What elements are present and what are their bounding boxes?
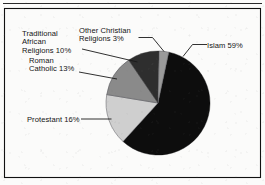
pie-chart-svg: Islam 59% Other Christian Religions 3% T… <box>0 0 265 185</box>
pie-slices <box>106 51 210 155</box>
leader-line-other-christian <box>139 38 165 52</box>
callout-protestant: Protestant 16% <box>27 115 80 124</box>
svg-text:Religions 10%: Religions 10% <box>22 46 71 55</box>
leader-line-islam <box>183 45 207 57</box>
pie-chart-figure: Islam 59% Other Christian Religions 3% T… <box>0 0 265 185</box>
svg-text:Catholic 13%: Catholic 13% <box>29 64 75 73</box>
leader-line-roman-catholic <box>79 72 117 79</box>
callout-traditional-african: Traditional African Religions 10% <box>22 29 71 55</box>
svg-text:Religions 3%: Religions 3% <box>79 34 124 43</box>
callout-islam: Islam 59% <box>207 41 243 50</box>
callout-roman-catholic: Roman Catholic 13% <box>29 56 75 74</box>
leader-line-traditional-african <box>82 49 138 62</box>
callout-other-christian: Other Christian Religions 3% <box>79 26 131 44</box>
